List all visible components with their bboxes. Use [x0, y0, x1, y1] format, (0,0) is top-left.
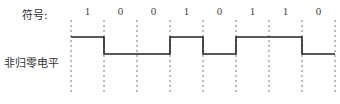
bit-label: 0 — [151, 5, 157, 17]
bit-label: 1 — [250, 5, 256, 17]
bit-boundary-lines — [71, 20, 335, 92]
bit-label: 1 — [283, 5, 289, 17]
bit-labels: 10010110 — [85, 5, 322, 17]
nrz-waveform — [71, 37, 335, 54]
bit-label: 0 — [118, 5, 124, 17]
nrz-waveform-diagram: 10010110 — [0, 0, 340, 104]
bit-label: 1 — [184, 5, 190, 17]
bit-label: 0 — [316, 5, 322, 17]
bit-label: 0 — [217, 5, 223, 17]
bit-label: 1 — [85, 5, 91, 17]
